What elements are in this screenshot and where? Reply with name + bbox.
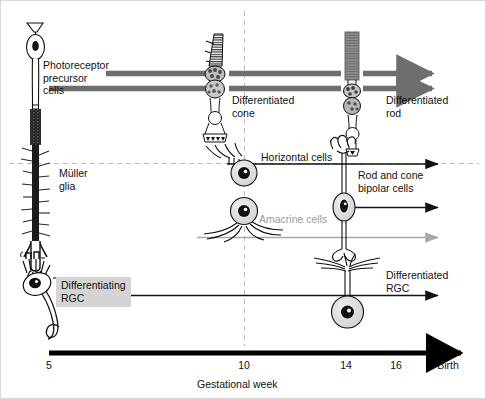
axis-tick-5: 5 [39, 359, 59, 371]
axis-tick-14: 14 [336, 359, 356, 371]
label-differentiated-cone: Differentiated cone [232, 94, 294, 119]
label-rod-and-cone-bipolar-cells: Rod and cone bipolar cells [358, 169, 423, 194]
photoreceptor-precursor-cell-glyph [27, 23, 45, 109]
differentiated-cone-glyph [203, 34, 227, 142]
label-photoreceptor-precursor-cells: Photoreceptor precursor cells [43, 59, 109, 97]
axis-caption-gestational-week: Gestational week [197, 378, 278, 390]
differentiated-rgc-glyph [314, 253, 380, 328]
label-differentiating-rgc: Differentiating RGC [56, 277, 131, 307]
axis-tick-birth: Birth [426, 359, 470, 371]
label-muller-glia: Müller glia [59, 167, 88, 192]
label-differentiated-rod: Differentiated rod [386, 94, 448, 119]
label-horizontal-cells: Horizontal cells [261, 151, 332, 164]
retinal-development-figure: Photoreceptor precursor cells Müller gli… [0, 0, 486, 399]
axis-tick-10: 10 [234, 359, 254, 371]
axis-tick-16: 16 [386, 359, 406, 371]
label-amacrine-cells: Amacrine cells [259, 213, 327, 226]
label-differentiated-rgc: Differentiated RGC [386, 269, 448, 294]
